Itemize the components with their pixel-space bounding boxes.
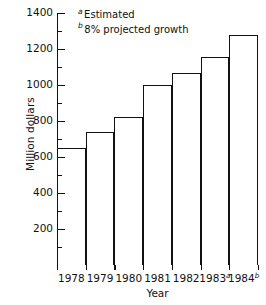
bar xyxy=(172,73,201,265)
y-tick xyxy=(58,49,65,50)
y-tick xyxy=(58,121,65,122)
x-tick xyxy=(229,265,230,270)
y-tick-label: 1400 xyxy=(7,6,53,18)
bar xyxy=(143,85,172,265)
y-axis-title: Million dollars xyxy=(24,74,36,194)
y-tick xyxy=(58,157,65,158)
y-minor-tick xyxy=(58,103,62,104)
y-tick-label: 600 xyxy=(7,150,53,162)
y-minor-tick xyxy=(58,247,62,248)
x-tick xyxy=(172,265,173,270)
y-minor-tick xyxy=(58,139,62,140)
x-axis-title: Year xyxy=(57,287,258,299)
y-minor-tick xyxy=(58,67,62,68)
y-minor-tick xyxy=(58,175,62,176)
y-tick-label: 1000 xyxy=(7,78,53,90)
bar-chart: Million dollars aEstimated b8% projected… xyxy=(0,0,266,305)
y-tick xyxy=(58,229,65,230)
y-tick xyxy=(58,193,65,194)
y-tick-label: 400 xyxy=(7,186,53,198)
bar xyxy=(229,35,258,265)
bar xyxy=(201,57,230,265)
bar xyxy=(114,117,143,266)
x-tick xyxy=(114,265,115,270)
x-tick xyxy=(201,265,202,270)
x-tick xyxy=(258,265,259,270)
y-minor-tick xyxy=(58,211,62,212)
x-tick-label: 1984b xyxy=(224,272,264,284)
y-tick xyxy=(58,85,65,86)
y-minor-tick xyxy=(58,31,62,32)
x-tick xyxy=(143,265,144,270)
y-tick-label: 1200 xyxy=(7,42,53,54)
y-tick-label: 800 xyxy=(7,114,53,126)
plot-area xyxy=(57,13,258,265)
y-tick-label: 200 xyxy=(7,222,53,234)
bar xyxy=(86,132,115,265)
y-tick xyxy=(58,13,65,14)
x-tick xyxy=(86,265,87,270)
x-tick xyxy=(57,265,58,270)
